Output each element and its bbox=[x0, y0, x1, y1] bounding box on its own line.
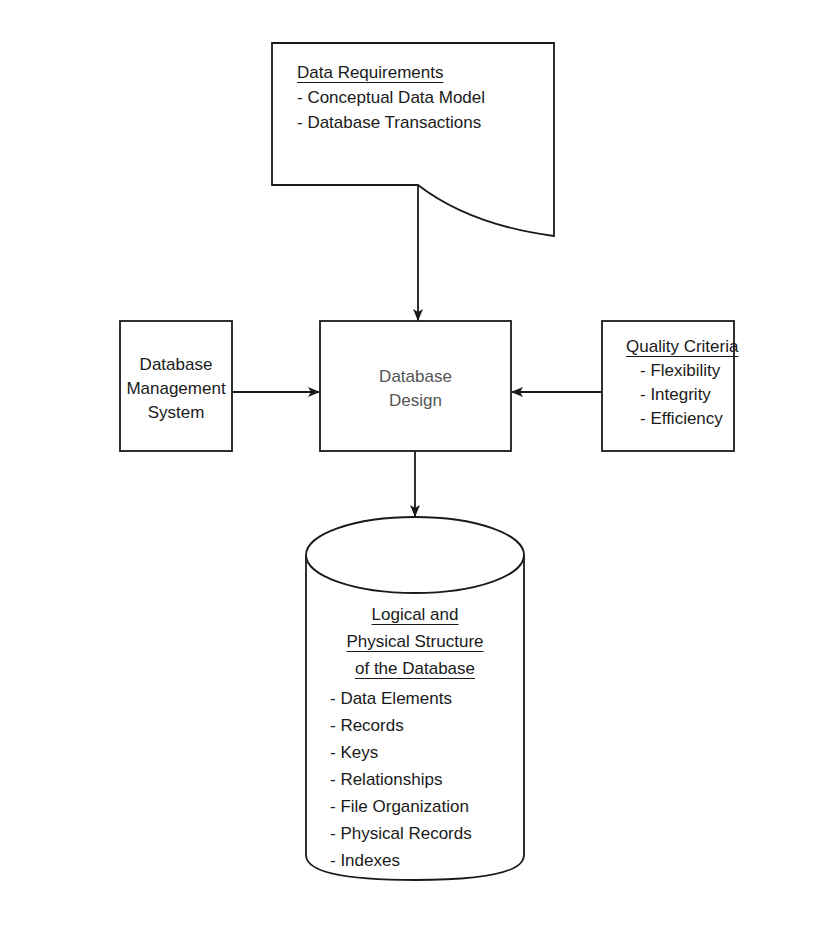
structure-title: Logical and Physical Structure of the Da… bbox=[306, 604, 524, 679]
quality-item: - Flexibility bbox=[626, 360, 738, 381]
structure-item: - Relationships bbox=[330, 769, 472, 790]
structure-item: - Indexes bbox=[330, 850, 472, 871]
structure-item: - Keys bbox=[330, 742, 472, 763]
dbms-line: Database bbox=[120, 354, 232, 375]
data-requirements-item: - Conceptual Data Model bbox=[297, 87, 485, 108]
quality-criteria-title: Quality Criteria bbox=[626, 336, 738, 357]
data-requirements-title: Data Requirements bbox=[297, 62, 485, 83]
structure-items: - Data Elements - Records - Keys - Relat… bbox=[330, 688, 472, 871]
dbms-line: Management bbox=[120, 378, 232, 399]
structure-title-line: Logical and bbox=[306, 604, 524, 625]
design-line: Design bbox=[320, 390, 511, 411]
structure-title-line: of the Database bbox=[306, 658, 524, 679]
structure-title-line: Physical Structure bbox=[306, 631, 524, 652]
structure-item: - Records bbox=[330, 715, 472, 736]
design-label: Database Design bbox=[320, 366, 511, 411]
quality-item: - Efficiency bbox=[626, 408, 738, 429]
database-cylinder-top bbox=[306, 517, 524, 593]
design-line: Database bbox=[320, 366, 511, 387]
dbms-label: Database Management System bbox=[120, 354, 232, 423]
structure-item: - Data Elements bbox=[330, 688, 472, 709]
data-requirements-block: Data Requirements - Conceptual Data Mode… bbox=[297, 62, 485, 133]
quality-item: - Integrity bbox=[626, 384, 738, 405]
data-requirements-item: - Database Transactions bbox=[297, 112, 485, 133]
structure-item: - File Organization bbox=[330, 796, 472, 817]
structure-item: - Physical Records bbox=[330, 823, 472, 844]
quality-criteria-block: Quality Criteria - Flexibility - Integri… bbox=[626, 336, 738, 429]
dbms-line: System bbox=[120, 402, 232, 423]
